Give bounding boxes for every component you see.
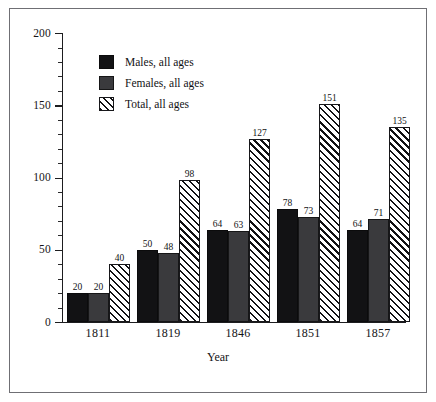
- x-tick-label-1857: 1857: [365, 327, 390, 340]
- bar-female-1819: 48: [158, 253, 179, 322]
- y-tick-minor-30: [58, 279, 63, 280]
- y-tick-minor-180: [58, 62, 63, 63]
- bar-total-1851: 151: [319, 104, 340, 322]
- legend-label-females: Females, all ages: [125, 77, 204, 89]
- y-tick-major-0: [55, 322, 62, 323]
- y-tick-minor-130: [58, 134, 63, 135]
- bar-value-female-1819: 48: [164, 242, 174, 252]
- x-tick-label-1846: 1846: [225, 327, 250, 340]
- bar-male-1857: 64: [347, 230, 368, 323]
- bar-value-male-1819: 50: [143, 239, 153, 249]
- legend-label-total: Total, all ages: [125, 98, 189, 110]
- bar-chart-plot-area: 200 150 100 50 0 20 20 40 1811: [0, 0, 436, 402]
- bar-female-1846: 63: [228, 231, 249, 322]
- bar-value-male-1811: 20: [73, 282, 83, 292]
- y-tick-major-150: [55, 105, 62, 106]
- bar-total-1811: 40: [109, 264, 130, 322]
- y-tick-label-150: 150: [11, 100, 51, 112]
- bar-female-1857: 71: [368, 219, 389, 322]
- bar-value-total-1851: 151: [322, 93, 336, 103]
- bar-value-female-1851: 73: [304, 206, 314, 216]
- y-tick-minor-140: [58, 120, 63, 121]
- bar-value-female-1811: 20: [94, 282, 104, 292]
- chart-legend: Males, all ages Females, all ages Total,…: [99, 51, 204, 114]
- bar-value-female-1857: 71: [374, 208, 384, 218]
- bar-value-male-1846: 64: [213, 219, 223, 229]
- y-tick-minor-110: [58, 163, 63, 164]
- y-tick-minor-60: [58, 235, 63, 236]
- bar-male-1846: 64: [207, 230, 228, 323]
- y-tick-label-200: 200: [11, 28, 51, 40]
- bar-total-1846: 127: [249, 139, 270, 323]
- legend-item-total: Total, all ages: [99, 93, 204, 114]
- y-tick-label-50: 50: [11, 244, 51, 256]
- y-tick-minor-10: [58, 308, 63, 309]
- bar-value-male-1857: 64: [353, 219, 363, 229]
- bar-total-1819: 98: [179, 180, 200, 322]
- figure: 200 150 100 50 0 20 20 40 1811: [0, 0, 436, 402]
- y-tick-minor-90: [58, 192, 63, 193]
- bar-male-1811: 20: [67, 293, 88, 322]
- y-tick-minor-40: [58, 264, 63, 265]
- y-tick-major-200: [55, 33, 62, 34]
- y-tick-label-0: 0: [11, 317, 51, 329]
- legend-swatch-total-icon: [99, 97, 114, 111]
- bar-male-1819: 50: [137, 250, 158, 322]
- y-tick-minor-80: [58, 206, 63, 207]
- y-tick-minor-190: [58, 48, 63, 49]
- y-tick-minor-20: [58, 293, 63, 294]
- y-tick-minor-160: [58, 91, 63, 92]
- bar-total-1857: 135: [389, 127, 410, 322]
- legend-item-males: Males, all ages: [99, 51, 204, 72]
- bar-male-1851: 78: [277, 209, 298, 322]
- y-axis-line: [62, 33, 63, 323]
- x-tick-label-1819: 1819: [155, 327, 180, 340]
- x-axis-line: [62, 322, 406, 323]
- bar-value-total-1819: 98: [185, 169, 195, 179]
- bar-value-total-1857: 135: [392, 116, 406, 126]
- y-tick-major-100: [55, 178, 62, 179]
- legend-label-males: Males, all ages: [125, 56, 194, 68]
- bar-value-total-1811: 40: [115, 253, 125, 263]
- x-tick-label-1851: 1851: [295, 327, 320, 340]
- bar-value-total-1846: 127: [252, 128, 266, 138]
- x-tick-label-1811: 1811: [86, 327, 111, 340]
- bar-female-1851: 73: [298, 217, 319, 323]
- x-axis-title: Year: [0, 351, 436, 364]
- y-tick-major-50: [55, 250, 62, 251]
- y-tick-minor-170: [58, 76, 63, 77]
- legend-item-females: Females, all ages: [99, 72, 204, 93]
- y-tick-minor-120: [58, 149, 63, 150]
- y-tick-minor-70: [58, 221, 63, 222]
- bar-female-1811: 20: [88, 293, 109, 322]
- bar-value-female-1846: 63: [234, 220, 244, 230]
- legend-swatch-females-icon: [99, 76, 114, 90]
- y-tick-label-100: 100: [11, 172, 51, 184]
- bar-value-male-1851: 78: [283, 198, 293, 208]
- legend-swatch-males-icon: [99, 55, 114, 69]
